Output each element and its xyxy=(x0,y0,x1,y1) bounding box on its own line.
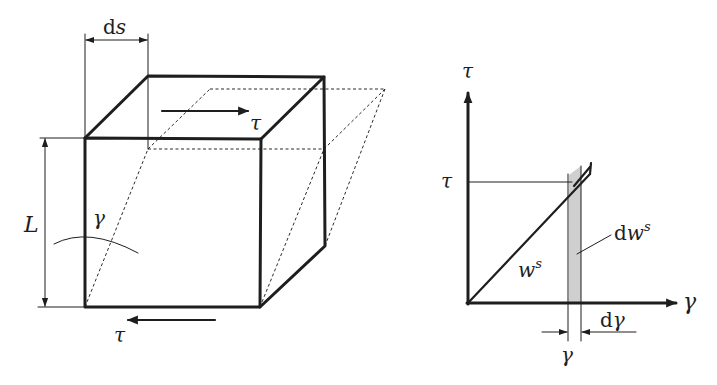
shear-energy-diagram: ds L γ xyxy=(0,0,717,385)
length-label: L xyxy=(23,212,39,237)
strain-energy-label: ws xyxy=(518,256,542,282)
tau-axis-label: τ xyxy=(462,59,474,83)
gamma-angle-label: γ xyxy=(93,206,105,230)
top-shear-label: τ xyxy=(250,111,262,135)
ds-label: ds xyxy=(103,15,126,39)
gamma-axis-label: γ xyxy=(683,289,697,314)
tau-level-label: τ xyxy=(441,169,453,193)
length-dimension: L xyxy=(23,138,85,307)
dws-leader-line xyxy=(577,235,611,254)
sheared-cube-outline xyxy=(85,89,385,307)
dgamma-label: dγ xyxy=(600,308,625,332)
dws-label: dws xyxy=(614,219,651,245)
gamma-angle-arc xyxy=(54,237,138,253)
cube-panel: ds L γ xyxy=(23,15,385,347)
gamma-tick-label: γ xyxy=(561,343,573,367)
bottom-shear-label: τ xyxy=(114,323,126,347)
stress-strain-panel: τ γ τ ws dws dγ γ xyxy=(441,59,697,367)
